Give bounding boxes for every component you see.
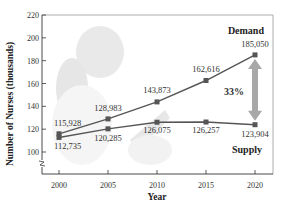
y-tick-label: 220 [27,11,39,20]
x-ticks: 20002005201020152020 [51,170,263,190]
y-ticks: 100120140160180200220 [27,11,46,157]
axis-break-icon [39,161,45,166]
data-point-marker [106,126,111,131]
y-tick-label: 100 [27,148,39,157]
gap-percent-label: 33% [224,86,244,97]
nurse-supply-demand-chart: 100120140160180200220 200020052010201520… [0,0,284,205]
data-value-label: 162,616 [192,64,220,74]
data-point-marker [57,135,62,140]
x-tick-label: 2010 [149,181,165,190]
data-point-marker [155,120,160,125]
data-point-marker [204,78,209,83]
data-value-label: 128,983 [94,103,122,113]
data-value-label: 126,257 [192,125,220,135]
x-tick-label: 2000 [51,181,67,190]
y-tick-label: 160 [27,80,39,89]
data-value-label: 115,928 [54,118,81,128]
gap-double-arrow-icon [248,59,262,121]
y-tick-label: 180 [27,57,39,66]
data-value-label: 112,735 [54,141,81,151]
data-point-marker [155,99,160,104]
data-value-label: 120,285 [94,133,122,143]
x-tick-label: 2005 [100,181,116,190]
data-value-label: 123,904 [241,129,269,139]
x-axis-title: Year [148,192,168,202]
x-tick-label: 2015 [198,181,214,190]
series-title-supply: Supply [232,144,262,155]
data-point-marker [106,116,111,121]
data-value-label: 126,075 [143,125,171,135]
y-axis-title: Number of Nurses (thousands) [5,42,16,166]
y-tick-label: 120 [27,125,39,134]
y-tick-label: 140 [27,102,39,111]
y-axis [39,15,45,174]
data-value-label: 185,050 [241,39,269,49]
data-point-marker [253,52,258,57]
data-value-label: 143,873 [143,85,171,95]
data-point-marker [204,120,209,125]
y-tick-label: 200 [27,34,39,43]
x-tick-label: 2020 [247,181,263,190]
series-title-demand: Demand [228,25,265,36]
data-point-marker [253,122,258,127]
